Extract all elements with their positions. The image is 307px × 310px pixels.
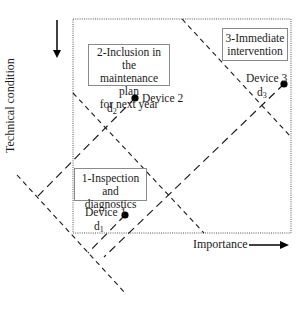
device-1-label: Device 1	[85, 206, 126, 219]
device-3-label: Device 3	[246, 72, 287, 85]
zone-3-label-box: 3-Immediate intervention	[222, 28, 288, 61]
distance-d2-label: d2	[107, 102, 117, 118]
x-axis-arrowhead-icon	[280, 241, 289, 249]
zone-2-label-box: 2-Inclusion in the maintenance plan for …	[88, 44, 170, 86]
device-2-label: Device 2	[142, 92, 183, 105]
zone-1-line-1: 1-Inspection	[75, 172, 146, 185]
zone-2-line-1: 2-Inclusion in the	[89, 46, 169, 72]
y-axis-label: Technical condition	[3, 58, 18, 153]
zone-1-label-box: 1-Inspection and diagnostics	[74, 168, 147, 201]
zone-3-line-1: 3-Immediate	[223, 32, 287, 45]
x-axis-label: Importance	[193, 238, 248, 251]
distance-d3-label: d3	[257, 86, 267, 102]
zone-3-line-2: intervention	[223, 45, 287, 58]
distance-d1-label: d1	[94, 220, 104, 236]
y-axis-arrowhead-icon	[53, 50, 61, 58]
